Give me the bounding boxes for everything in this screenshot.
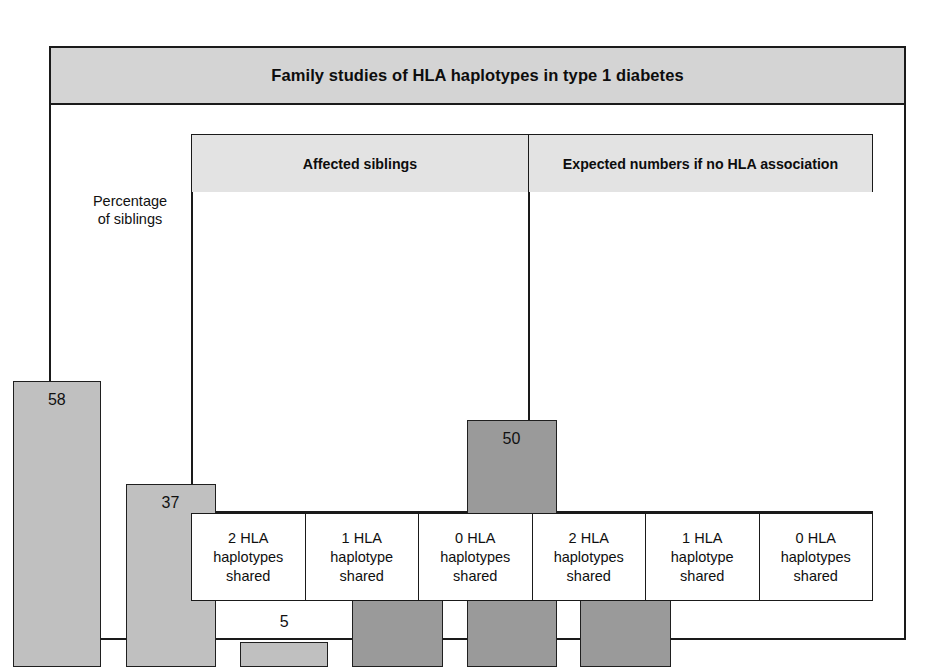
category-line3: shared [680,567,724,586]
figure-title-band: Family studies of HLA haplotypes in type… [49,46,906,105]
category-line1: 2 HLA [228,529,268,548]
category-line3: shared [794,567,838,586]
category-label-grid: 2 HLA haplotypes shared 1 HLA haplotype … [191,513,873,601]
category-line1: 0 HLA [796,529,836,548]
category-line3: shared [340,567,384,586]
bar-value-label: 5 [241,613,327,631]
category-line2: haplotypes [781,548,851,567]
category-line1: 1 HLA [342,529,382,548]
category-line2: haplotype [330,548,393,567]
bar-affected-0-haplotypes[interactable]: 5 [240,642,328,667]
category-cell-1: 1 HLA haplotype shared [306,514,420,600]
category-line3: shared [567,567,611,586]
bar-value-label: 50 [468,430,556,448]
panel-header-affected-siblings: Affected siblings [191,134,529,193]
panel-header-label: Affected siblings [303,156,417,172]
category-line1: 2 HLA [569,529,609,548]
category-cell-0: 2 HLA haplotypes shared [192,514,306,600]
category-line3: shared [453,567,497,586]
category-cell-5: 0 HLA haplotypes shared [760,514,873,600]
category-cell-4: 1 HLA haplotype shared [646,514,760,600]
panel-header-expected-numbers: Expected numbers if no HLA association [528,134,873,193]
y-axis-label-line1: Percentage [74,192,186,210]
category-line2: haplotypes [440,548,510,567]
bar-value-label: 58 [14,391,100,409]
category-line1: 1 HLA [682,529,722,548]
panel-header-label: Expected numbers if no HLA association [563,156,838,172]
category-line2: haplotype [671,548,734,567]
category-cell-3: 2 HLA haplotypes shared [533,514,647,600]
page-title: Family studies of HLA haplotypes in type… [271,66,684,85]
category-line2: haplotypes [554,548,624,567]
bar-affected-2-haplotypes[interactable]: 58 [13,381,101,667]
category-line1: 0 HLA [455,529,495,548]
y-axis-line [191,192,193,515]
category-line3: shared [226,567,270,586]
category-cell-2: 0 HLA haplotypes shared [419,514,533,600]
bar-value-label: 37 [127,494,215,512]
y-axis-label: Percentage of siblings [74,192,186,228]
category-line2: haplotypes [213,548,283,567]
y-axis-label-line2: of siblings [74,210,186,228]
